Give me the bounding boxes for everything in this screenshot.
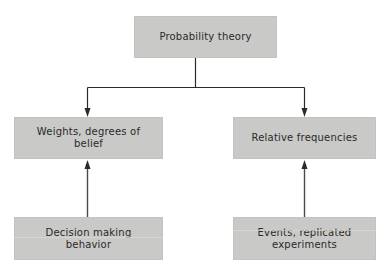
arrow-down-left-icon [85,88,91,118]
node-label: Weights, degrees of belief [37,126,140,150]
arrow-up-left-icon [85,160,91,217]
arrow-down-right-icon [302,88,308,118]
scan-artifact [14,237,163,238]
node-weights-degrees-of-belief: Weights, degrees of belief [14,117,163,159]
node-label: Probability theory [159,31,251,43]
arrow-up-right-icon [302,160,308,217]
node-label: Relative frequencies [252,132,358,144]
node-relative-frequencies: Relative frequencies [233,117,376,159]
scan-artifact [233,230,376,231]
node-decision-making-behavior: Decision making behavior [14,217,163,260]
node-events-replicated-experiments: Events, replicated experiments [233,217,376,260]
node-probability-theory: Probability theory [134,16,277,58]
node-label: Decision making behavior [46,227,132,251]
